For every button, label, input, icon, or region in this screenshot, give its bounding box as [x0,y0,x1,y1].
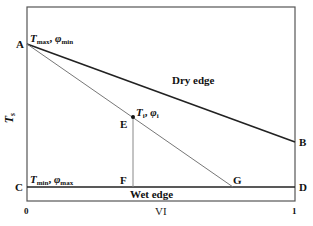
wet-edge-label: Wet edge [130,188,173,200]
isoline-a-g [27,44,233,187]
label-a: A [16,38,24,50]
x-tick-0: 0 [24,206,29,216]
triangle-space-diagram: A B C D E F G Tmax, φmin Tmin, φmax Ti, … [0,0,313,226]
label-f: F [120,174,127,186]
label-c: C [15,181,23,193]
annotation-tmax-phimin: Tmax, φmin [30,32,73,46]
label-b: B [299,136,307,148]
x-axis-label: VI [155,205,167,217]
point-e-marker [131,115,135,119]
svg-text:Ts: Ts [2,113,17,123]
label-e: E [120,118,127,130]
label-d: D [299,181,307,193]
x-tick-1: 1 [292,206,297,216]
y-axis-label: Ts [2,113,17,123]
annotation-ti-phii: Ti, φi [136,106,159,120]
plot-frame [27,7,295,201]
dry-edge-line [27,44,295,142]
annotation-tmin-phimax: Tmin, φmax [30,173,74,187]
dry-edge-label: Dry edge [172,74,215,86]
label-g: G [233,174,242,186]
